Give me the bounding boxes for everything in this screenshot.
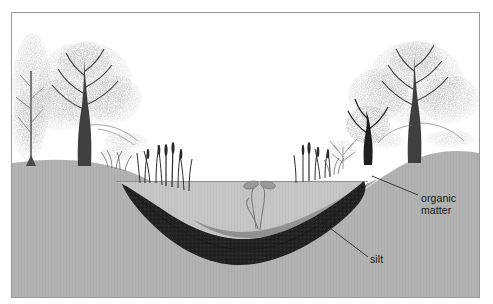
pond-cross-section-illustration	[12, 13, 479, 297]
label-organic-matter: organic matter	[421, 192, 456, 216]
label-silt: silt	[370, 253, 383, 265]
shrub-left	[100, 146, 132, 162]
figure-canvas: organic matter silt	[0, 0, 493, 304]
illustration-plate: organic matter silt	[11, 12, 480, 298]
